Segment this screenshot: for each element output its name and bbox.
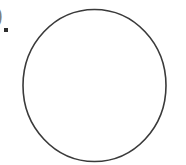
figure-canvas: ): [0, 0, 186, 165]
circle-outline: [23, 10, 166, 162]
circle-figure-svg: [0, 0, 186, 165]
